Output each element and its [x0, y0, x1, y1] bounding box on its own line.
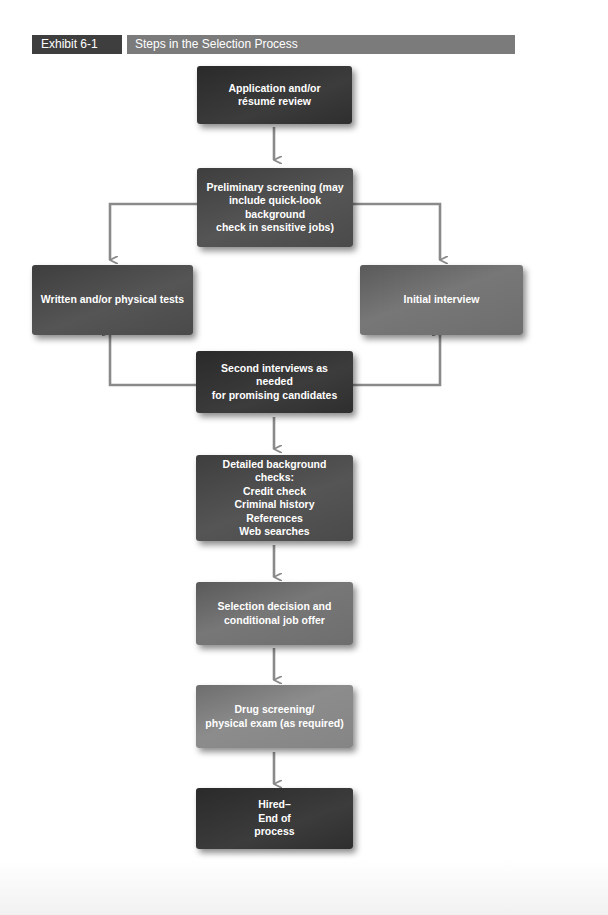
- step-text-line: for promising candidates: [202, 389, 347, 403]
- step-text-line: Drug screening/: [205, 703, 343, 717]
- step-text-line: Detailed background checks:: [202, 458, 347, 485]
- arrow-preliminary-to-written-tests: [110, 204, 197, 260]
- arrow-second-to-initial-interview: [353, 332, 440, 385]
- step-initial-interview: Initial interview: [360, 265, 523, 335]
- step-selection-decision: Selection decision and conditional job o…: [196, 582, 353, 645]
- step-text-line: Preliminary screening (may: [203, 181, 347, 195]
- step-text-line: check in sensitive jobs): [203, 221, 347, 235]
- step-text-line: Application and/or: [228, 82, 320, 96]
- step-background-checks: Detailed background checks: Credit check…: [196, 455, 353, 541]
- step-text-line: conditional job offer: [218, 614, 332, 628]
- step-preliminary-screening: Preliminary screening (may include quick…: [197, 168, 353, 247]
- step-text-line: Credit check: [202, 485, 347, 499]
- step-text-line: Web searches: [202, 525, 347, 539]
- step-drug-screening: Drug screening/ physical exam (as requir…: [196, 685, 353, 748]
- step-text-line: Written and/or physical tests: [41, 293, 184, 307]
- arrow-preliminary-to-initial-interview: [352, 204, 440, 260]
- step-hired-end: Hired– End of process: [196, 788, 353, 849]
- step-text-line: résumé review: [228, 95, 320, 109]
- step-written-physical-tests: Written and/or physical tests: [32, 265, 193, 335]
- step-text-line: include quick-look background: [203, 194, 347, 221]
- arrow-second-to-written-tests: [110, 332, 196, 385]
- step-text-line: References: [202, 512, 347, 526]
- step-second-interviews: Second interviews as needed for promisin…: [196, 351, 353, 413]
- step-text-line: Initial interview: [404, 293, 480, 307]
- step-text-line: Criminal history: [202, 498, 347, 512]
- step-text-line: process: [254, 825, 294, 839]
- step-text-line: Selection decision and: [218, 600, 332, 614]
- step-text-line: physical exam (as required): [205, 717, 343, 731]
- step-text-line: End of: [254, 812, 294, 826]
- step-application-review: Application and/or résumé review: [197, 66, 352, 124]
- step-text-line: Second interviews as needed: [202, 362, 347, 389]
- step-text-line: Hired–: [254, 798, 294, 812]
